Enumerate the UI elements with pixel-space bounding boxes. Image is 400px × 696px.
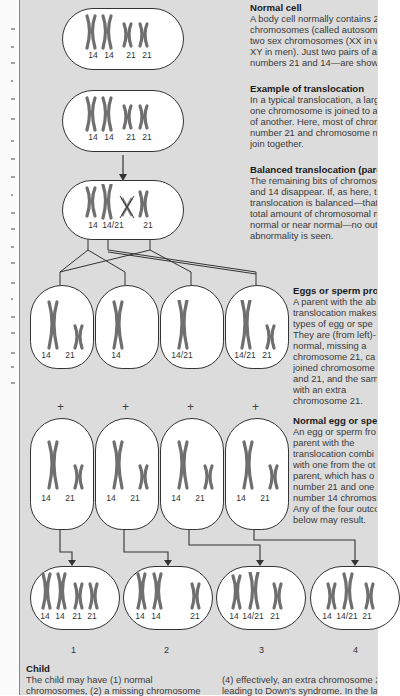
caption-title: Normal egg or spe bbox=[293, 415, 377, 426]
caption-example-translocation: Example of translocation In a typical tr… bbox=[250, 83, 377, 149]
chromosome-label: 14/21 bbox=[96, 220, 130, 230]
caption-title: Balanced translocation (parent) bbox=[250, 164, 377, 175]
chromosome-set-translocation-icon bbox=[84, 96, 164, 132]
plus-sign: + bbox=[187, 400, 194, 414]
chromosome-label: 21 bbox=[258, 611, 292, 621]
child-number: 3 bbox=[259, 645, 264, 655]
chromosome-label: 21 bbox=[178, 611, 212, 621]
child-number: 1 bbox=[71, 645, 76, 655]
plus-sign: + bbox=[57, 400, 64, 414]
chromosome-label: 21 bbox=[248, 493, 282, 503]
normal-gamete-chromosomes-icon bbox=[30, 440, 290, 490]
chromosome-label: 21 bbox=[53, 493, 87, 503]
caption-normal-egg-or-sperm: Normal egg or spe An egg or sperm fro pa… bbox=[293, 415, 377, 525]
child-number: 2 bbox=[164, 645, 169, 655]
caption-child: Child The child may have (1) normal chro… bbox=[26, 663, 216, 696]
caption-title: Example of translocation bbox=[250, 83, 377, 94]
chromosome-label: 14 bbox=[139, 611, 173, 621]
chromosome-label: 21 bbox=[131, 220, 165, 230]
plus-sign: + bbox=[122, 400, 129, 414]
caption-title: Normal cell bbox=[250, 2, 377, 13]
caption-title: Eggs or sperm pro bbox=[293, 285, 377, 296]
chromosome-label: 21 bbox=[250, 350, 284, 360]
caption-eggs-or-sperm: Eggs or sperm pro A parent with the ab t… bbox=[293, 285, 377, 406]
chromosome-label: 21 bbox=[53, 350, 87, 360]
chromosome-label: 21 bbox=[118, 493, 152, 503]
chromosome-label: 21 bbox=[130, 132, 164, 142]
caption-child-continued: (4) effectively, an extra chromosome 2 l… bbox=[222, 674, 377, 696]
caption-title: Child bbox=[26, 663, 216, 674]
chromosome-label: 21 bbox=[75, 611, 109, 621]
chromosome-label: 21 bbox=[350, 611, 384, 621]
plus-sign: + bbox=[252, 400, 259, 414]
chromosome-label: 14 bbox=[99, 350, 133, 360]
chromosome-label: 21 bbox=[130, 50, 164, 60]
child-number: 4 bbox=[353, 645, 358, 655]
parent-gamete-chromosomes-icon bbox=[30, 300, 290, 350]
chromosome-set-balanced-icon bbox=[84, 184, 164, 220]
chromosome-label: 14/21 bbox=[165, 350, 199, 360]
chromosome-label: 21 bbox=[183, 493, 217, 503]
child-chromosomes-icon bbox=[30, 572, 377, 612]
caption-normal-cell: Normal cell A body cell normally contain… bbox=[250, 2, 377, 68]
caption-balanced-translocation: Balanced translocation (parent) The rema… bbox=[250, 164, 377, 241]
chromosome-set-normal-icon bbox=[84, 14, 164, 50]
